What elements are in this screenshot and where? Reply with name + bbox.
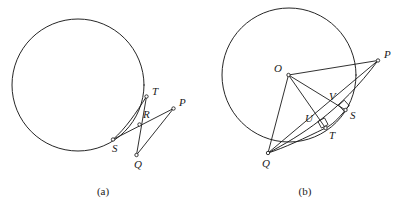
caption-panel-a: (a): [97, 185, 110, 198]
segment-O-P-b: [289, 61, 379, 76]
caption-panel-b: (b): [299, 185, 312, 198]
label-O-b: O: [274, 62, 282, 74]
vertex-T-a: [145, 95, 148, 98]
label-S-a: S: [112, 142, 118, 154]
panel-a: T R S Q P (a): [12, 19, 186, 198]
label-S-b: S: [350, 109, 356, 121]
vertex-O-b: [287, 73, 290, 76]
label-U-b: U: [305, 112, 314, 124]
vertex-P-b: [376, 59, 379, 62]
label-Q-a: Q: [134, 158, 142, 170]
label-Q-b: Q: [262, 157, 270, 169]
vertex-R-a: [138, 123, 141, 126]
geometry-figure: T R S Q P (a) O P Q: [0, 0, 401, 207]
vertex-P-a: [172, 107, 175, 110]
vertex-T-b: [324, 126, 327, 129]
segment-O-S-b: [289, 75, 346, 110]
circle-a: [12, 19, 144, 151]
label-R-a: R: [142, 108, 150, 120]
vertex-S-a: [111, 138, 114, 141]
label-T-a: T: [152, 85, 159, 97]
label-P-b: P: [383, 48, 391, 60]
geometry-canvas: T R S Q P (a) O P Q: [0, 0, 401, 207]
label-T-b: T: [329, 129, 336, 141]
panel-b: O P Q S T V U (b): [222, 8, 391, 198]
vertex-S-b: [344, 108, 347, 111]
vertex-Q-a: [135, 153, 138, 156]
vertex-Q-b: [266, 151, 269, 154]
label-P-a: P: [178, 96, 186, 108]
segment-Q-P-b: [268, 61, 378, 154]
